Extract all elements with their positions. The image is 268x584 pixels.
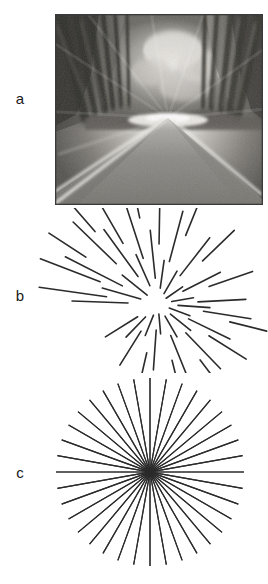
radial-line-segment: [49, 233, 86, 257]
panel-b-sparse-radial-lines: [0, 208, 268, 373]
radial-line-segment: [159, 208, 160, 244]
radial-line-segment: [209, 271, 252, 286]
radial-line-segment: [131, 208, 139, 218]
radial-line-segment: [200, 360, 223, 373]
dense-radial-starburst: [0, 373, 268, 584]
radial-line-segment: [145, 315, 153, 335]
radial-line-group-b: [39, 208, 267, 373]
radial-line-segment: [165, 316, 177, 337]
panel-c-dense-starburst: [0, 373, 268, 584]
figure-radial-flow-panels: a: [0, 0, 268, 584]
radial-line-segment: [178, 305, 210, 307]
radial-line-segment: [209, 336, 246, 359]
radial-line-segment: [169, 211, 182, 261]
radial-line-segment: [169, 308, 190, 316]
radial-line-segment: [186, 208, 202, 235]
radial-line-segment: [203, 230, 235, 261]
radial-line-segment: [153, 330, 156, 370]
radial-line-segment: [160, 260, 164, 288]
radial-line-segment: [159, 314, 161, 334]
radial-line-segment: [120, 331, 141, 365]
radial-line-segment: [170, 314, 190, 330]
radial-line-segment: [102, 288, 140, 299]
radial-line-segment: [105, 317, 137, 337]
radial-line-segment: [71, 208, 95, 232]
radial-line-segment: [172, 298, 194, 302]
radial-line-segment: [137, 353, 147, 373]
radial-line-segment: [126, 317, 145, 337]
radial-line-segment: [198, 299, 246, 302]
radial-line-segment: [166, 287, 182, 298]
forest-road-photo: [55, 14, 263, 205]
radial-line-segment: [72, 301, 128, 303]
sparse-radial-line-field: [0, 208, 268, 373]
radial-line-segment: [150, 230, 155, 278]
radial-line-segment: [104, 230, 138, 277]
radial-line-segment: [203, 311, 250, 319]
radial-line-segment: [124, 208, 143, 258]
panel-a-photograph: [55, 14, 263, 205]
radial-line-segment: [136, 255, 150, 286]
radial-line-segment: [95, 208, 123, 243]
radial-line-segment: [39, 287, 106, 296]
radial-line-segment: [164, 271, 177, 294]
radial-line-segment: [122, 275, 147, 295]
radial-ray-group-c: [56, 378, 244, 566]
radial-line-segment: [183, 272, 220, 291]
radial-line-segment: [73, 222, 116, 264]
panel-label-a: a: [10, 91, 30, 106]
radial-line-segment: [230, 322, 267, 331]
radial-line-segment: [180, 238, 210, 276]
